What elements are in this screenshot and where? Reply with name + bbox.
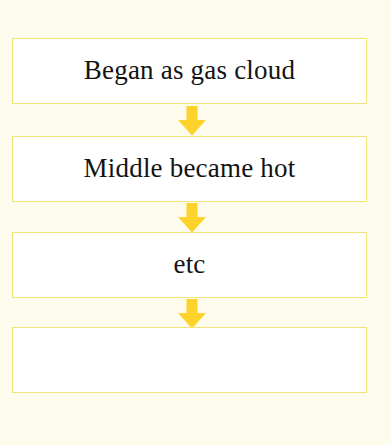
flowchart-node-2[interactable]: Middle became hot <box>12 136 367 202</box>
flowchart-node-4[interactable] <box>12 327 367 393</box>
flowchart-node-3-label: etc <box>173 250 205 280</box>
flowchart-node-1-label: Began as gas cloud <box>84 56 295 86</box>
flowchart-node-1[interactable]: Began as gas cloud <box>12 38 367 104</box>
flowchart-node-2-label: Middle became hot <box>84 154 296 184</box>
arrow-down-icon-2 <box>175 203 209 233</box>
flowchart-diagram: Began as gas cloud Middle became hot etc <box>0 0 391 445</box>
arrow-down-icon-3 <box>175 299 209 329</box>
flowchart-node-3[interactable]: etc <box>12 232 367 298</box>
arrow-down-icon-1 <box>175 106 209 136</box>
